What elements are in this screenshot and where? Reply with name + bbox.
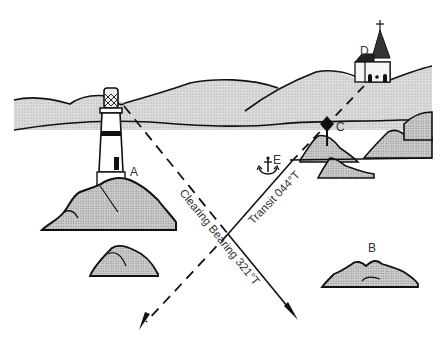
rock-a — [42, 178, 176, 230]
label-e: E — [273, 153, 281, 167]
rock-b — [322, 261, 418, 287]
label-d: D — [360, 44, 369, 58]
rock-small — [90, 246, 158, 276]
transit-label: Transit 044°T — [246, 169, 302, 227]
navigation-diagram: A B C D E Clearing Bearing 321°T Transit… — [0, 0, 445, 345]
clearing-bearing-label: Clearing Bearing 321°T — [177, 187, 262, 288]
label-c: C — [336, 120, 345, 134]
label-a: A — [130, 165, 138, 179]
label-b: B — [368, 241, 376, 255]
